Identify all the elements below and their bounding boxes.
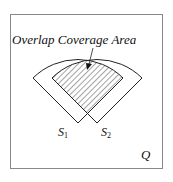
sensor-s1-label: S1 bbox=[58, 125, 68, 140]
s2-subscript: 2 bbox=[107, 131, 111, 140]
coverage-diagram: Overlap Coverage Area S1 S2 Q bbox=[0, 0, 173, 182]
sensor-s2-label: S2 bbox=[101, 125, 111, 140]
overlap-title: Overlap Coverage Area bbox=[12, 32, 136, 48]
region-q-label: Q bbox=[141, 147, 150, 163]
s1-subscript: 1 bbox=[64, 131, 68, 140]
